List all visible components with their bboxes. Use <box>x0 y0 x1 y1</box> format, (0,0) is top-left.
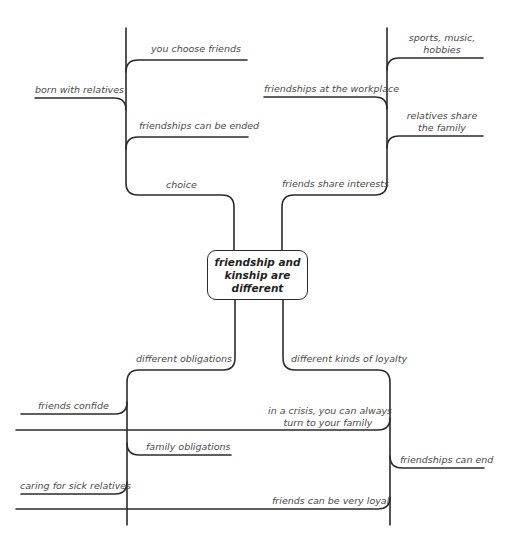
node-you-choose-friends[interactable]: you choose friends <box>151 43 241 55</box>
node-in-a-crisis[interactable]: in a crisis, you can always turn to your… <box>268 405 388 429</box>
relatives-share-line <box>387 136 483 148</box>
node-relatives-share-family[interactable]: relatives share the family <box>402 110 482 134</box>
node-sports-line-1: sports, music, <box>402 32 482 44</box>
branch-choice[interactable]: choice <box>166 179 197 191</box>
node-sports-line-2: hobbies <box>402 44 482 56</box>
central-topic-box[interactable]: friendship and kinship are different <box>207 250 308 300</box>
node-friendships-at-workplace[interactable]: friendships at the workplace <box>264 83 399 95</box>
sports-line <box>387 58 483 70</box>
node-born-with-relatives[interactable]: born with relatives <box>35 84 124 96</box>
node-sports-music-hobbies[interactable]: sports, music, hobbies <box>402 32 482 56</box>
central-topic-line-2: kinship are <box>225 269 291 282</box>
node-relatives-line-2: the family <box>402 122 482 134</box>
branch-different-kinds-of-loyalty[interactable]: different kinds of loyalty <box>291 353 407 365</box>
friendships-can-be-ended-line <box>126 137 248 149</box>
node-friends-confide[interactable]: friends confide <box>38 400 109 412</box>
branch-different-obligations[interactable]: different obligations <box>136 353 232 365</box>
node-family-obligations[interactable]: family obligations <box>146 441 230 453</box>
born-with-relatives-line <box>35 98 126 110</box>
workplace-line <box>264 97 387 109</box>
interests-trunk <box>282 28 387 250</box>
mind-map-canvas: friendship and kinship are different you… <box>0 0 507 548</box>
node-crisis-line-1: in a crisis, you can always <box>268 405 388 417</box>
node-friendships-can-be-ended[interactable]: friendships can be ended <box>139 120 259 132</box>
node-crisis-line-2: turn to your family <box>268 417 388 429</box>
obligations-trunk <box>127 300 235 525</box>
node-relatives-line-1: relatives share <box>402 110 482 122</box>
node-caring-for-sick-relatives[interactable]: caring for sick relatives <box>20 480 131 492</box>
central-topic-line-1: friendship and <box>214 256 300 269</box>
branch-friends-share-interests[interactable]: friends share interests <box>282 178 389 190</box>
central-topic-line-3: different <box>232 282 284 295</box>
node-friends-can-be-very-loyal[interactable]: friends can be very loyal <box>272 495 389 507</box>
you-choose-friends-line <box>126 60 247 72</box>
node-friendships-can-end[interactable]: friendships can end <box>400 454 493 466</box>
choice-trunk <box>126 28 234 250</box>
